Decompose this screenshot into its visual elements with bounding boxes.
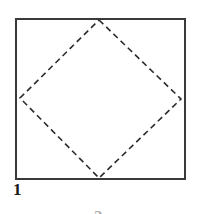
figure-container: 1 2 [0,0,206,214]
figure-number-label: 1 [13,181,22,198]
geometry-figure [0,0,206,214]
next-figure-number-partial-label: 2 [94,208,103,214]
figure-background [0,0,206,214]
